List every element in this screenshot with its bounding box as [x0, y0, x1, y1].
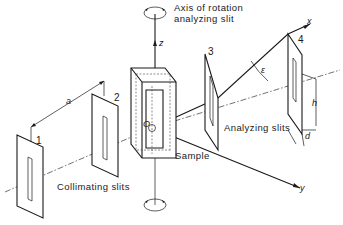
- slit-number-3: 3: [208, 46, 214, 57]
- epsilon-arc: [251, 61, 268, 81]
- analyzing-slit-4: [288, 34, 302, 134]
- symbol-y: y: [299, 183, 305, 193]
- label-analyzing-slits: Analyzing slits: [224, 122, 290, 133]
- symbol-h: h: [312, 98, 317, 108]
- symbol-d: d: [305, 131, 311, 141]
- symbol-epsilon: ε: [261, 65, 266, 75]
- diffraction-geometry-diagram: Axis of rotation analyzing slit Sample C…: [0, 0, 343, 225]
- symbol-z: z: [158, 38, 164, 48]
- analyzing-slit-3: [205, 54, 218, 150]
- collimating-slit-1: [17, 135, 43, 218]
- z-axis-arrow-icon: [153, 40, 157, 46]
- label-axis-rotation-2: analyzing slit: [174, 13, 234, 24]
- slit-number-2: 2: [114, 92, 120, 103]
- sample-block: [131, 68, 176, 158]
- label-axis-rotation-1: Axis of rotation: [174, 2, 243, 13]
- label-collimating-slits: Collimating slits: [57, 181, 130, 192]
- y-axis-arrow-icon: [293, 183, 300, 188]
- symbol-x: x: [306, 16, 312, 26]
- slit-number-1: 1: [36, 135, 42, 146]
- symbol-origin: O: [143, 119, 150, 129]
- symbol-a: a: [66, 96, 71, 106]
- label-sample: Sample: [175, 150, 210, 161]
- collimating-slit-2: [92, 94, 118, 177]
- slit-number-4: 4: [298, 34, 304, 45]
